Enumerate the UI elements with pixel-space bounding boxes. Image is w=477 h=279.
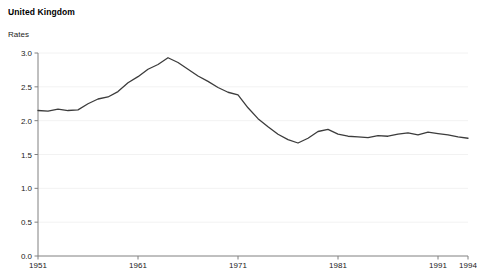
y-axis-tick-label: 2.5 [6,83,32,92]
y-axis-tick-label: 0.5 [6,218,32,227]
y-axis-tick-label: 3.0 [6,49,32,58]
y-axis-tick-label: 1.5 [6,151,32,160]
x-axis-tick-label: 1961 [129,261,147,270]
x-axis-tick-label: 1971 [229,261,247,270]
y-axis-tick-label: 0.0 [6,252,32,261]
data-series-line [38,58,468,143]
x-axis-ticks [38,256,468,260]
x-axis-tick-label: 1991 [429,261,447,270]
x-axis-tick-label: 1981 [329,261,347,270]
x-axis-tick-label: 1951 [29,261,47,270]
gridlines [38,53,468,222]
y-axis-label: Rates [8,30,29,39]
plot-area [38,53,468,256]
page-title: United Kingdom [8,7,75,17]
line-chart-svg [38,53,468,256]
y-axis-ticks [35,53,39,256]
y-axis-tick-label: 2.0 [6,117,32,126]
y-axis-tick-label: 1.0 [6,184,32,193]
x-axis-tick-label: 1994 [459,261,477,270]
